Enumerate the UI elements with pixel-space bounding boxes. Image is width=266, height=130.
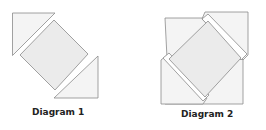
diagram-2 xyxy=(161,12,248,104)
diagram-2-caption: Diagram 2 xyxy=(181,109,233,119)
diagram-1-caption: Diagram 1 xyxy=(32,107,84,117)
diagram-1 xyxy=(13,13,99,98)
